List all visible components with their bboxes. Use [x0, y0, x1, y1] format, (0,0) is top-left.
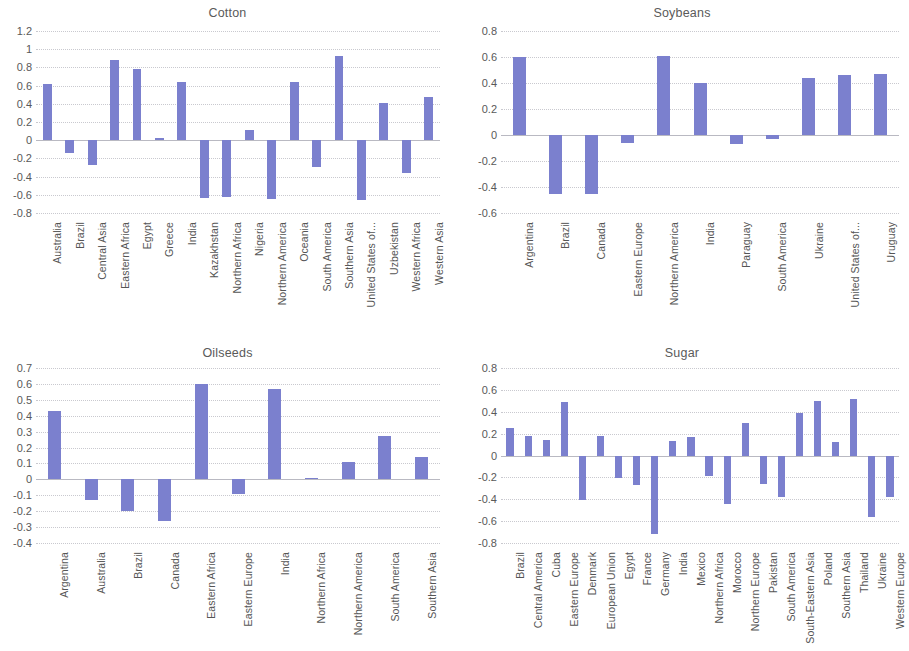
bar [766, 135, 779, 139]
chart-panel-sugar: Sugar0.80.60.40.20-0.2-0.4-0.6-0.8Brazil… [455, 340, 909, 651]
bar [814, 401, 821, 456]
bar [379, 103, 388, 140]
bar [424, 97, 433, 141]
x-tick-label: Ukraine [876, 552, 888, 589]
gridline [501, 543, 899, 544]
y-tick-label: 0 [491, 450, 497, 462]
bar [651, 456, 658, 535]
bar [133, 69, 142, 140]
y-tick-label: 0.6 [17, 80, 32, 92]
bar [597, 436, 604, 456]
bar [506, 428, 513, 455]
bar [850, 399, 857, 456]
y-tick-label: -0.8 [478, 537, 497, 549]
gridline [501, 477, 899, 478]
zero-axis-line [36, 140, 440, 141]
y-tick-label: -0.2 [478, 471, 497, 483]
x-tick-label: Poland [822, 552, 834, 585]
x-tick-label: Southern Asia [426, 552, 438, 619]
x-tick-label: Northern Africa [231, 222, 243, 294]
y-tick-label: 0 [491, 129, 497, 141]
y-axis-oilseeds: 0.70.60.50.40.30.20.10-0.1-0.2-0.3-0.4 [0, 340, 32, 651]
bar [342, 462, 355, 480]
y-tick-label: 0.5 [17, 394, 32, 406]
y-tick-label: 0.4 [482, 406, 497, 418]
y-tick-label: 0.8 [482, 25, 497, 37]
bar [110, 60, 119, 140]
bar [657, 56, 670, 135]
bar [85, 479, 98, 500]
chart-grid: Cotton1.210.80.60.40.20-0.2-0.4-0.6-0.8A… [0, 0, 909, 651]
x-tick-label: Uruguay [885, 222, 897, 262]
bar [525, 436, 532, 456]
y-tick-label: -0.3 [13, 521, 32, 533]
y-tick-label: 0.7 [17, 362, 32, 374]
gridline [36, 86, 440, 87]
bar [513, 57, 526, 135]
y-tick-label: 0 [26, 473, 32, 485]
x-tick-label: Kazakhstan [208, 222, 220, 278]
bar [543, 440, 550, 455]
x-tick-label: Central America [532, 552, 544, 628]
bar [232, 479, 245, 493]
y-tick-label: 0.3 [17, 426, 32, 438]
bar [868, 456, 875, 517]
bar [65, 140, 74, 153]
gridline [36, 195, 440, 196]
y-axis-sugar: 0.80.60.40.20-0.2-0.4-0.6-0.8 [455, 340, 497, 651]
bar [838, 75, 851, 135]
x-tick-label: Germany [659, 552, 671, 596]
y-tick-label: 0.4 [17, 410, 32, 422]
bar [121, 479, 134, 511]
bar [268, 389, 281, 480]
y-tick-label: 0.6 [17, 378, 32, 390]
y-tick-label: -0.4 [13, 537, 32, 549]
x-tick-label: Northern America [276, 222, 288, 305]
gridline [501, 368, 899, 369]
y-tick-label: 0.4 [482, 77, 497, 89]
x-tick-label: Australia [95, 552, 107, 594]
x-tick-label: South America [321, 222, 333, 292]
y-axis-cotton: 1.210.80.60.40.20-0.2-0.4-0.6-0.8 [0, 0, 32, 340]
x-tick-label: Australia [51, 222, 63, 264]
bar [687, 437, 694, 456]
y-tick-label: -0.4 [13, 171, 32, 183]
y-tick-label: -0.2 [478, 155, 497, 167]
y-tick-label: 0.6 [482, 51, 497, 63]
y-tick-label: 0.8 [482, 362, 497, 374]
x-tick-label: Mexico [695, 552, 707, 586]
bar [88, 140, 97, 165]
x-tick-label: Paraguay [740, 222, 752, 268]
chart-title-oilseeds: Oilseeds [0, 346, 455, 360]
y-tick-label: 1 [26, 43, 32, 55]
x-tick-label: European Union [605, 552, 617, 629]
gridline [501, 213, 899, 214]
bar [796, 413, 803, 456]
bar [669, 441, 676, 455]
x-tick-label: Argentina [523, 222, 535, 268]
y-tick-label: 0.2 [17, 442, 32, 454]
bar [290, 82, 299, 140]
gridline [501, 499, 899, 500]
x-tick-label: Canada [595, 222, 607, 259]
gridline [36, 527, 440, 528]
bar [874, 74, 887, 135]
gridline [36, 543, 440, 544]
y-tick-label: -0.8 [13, 207, 32, 219]
y-tick-label: -0.6 [13, 189, 32, 201]
chart-panel-cotton: Cotton1.210.80.60.40.20-0.2-0.4-0.6-0.8A… [0, 0, 455, 340]
x-tick-label: Northern America [668, 222, 680, 305]
y-tick-label: -0.6 [478, 515, 497, 527]
x-tick-label: Egypt [623, 552, 635, 579]
y-tick-label: 0.4 [17, 98, 32, 110]
bar [561, 402, 568, 456]
bar [621, 135, 634, 143]
y-tick-label: 0.2 [17, 116, 32, 128]
x-tick-label: Argentina [58, 552, 70, 598]
x-tick-label: Greece [163, 222, 175, 257]
bar [549, 135, 562, 194]
chart-title-sugar: Sugar [455, 346, 909, 360]
x-tick-label: Eastern Europe [568, 552, 580, 626]
y-tick-label: 0.1 [17, 457, 32, 469]
gridline [36, 400, 440, 401]
